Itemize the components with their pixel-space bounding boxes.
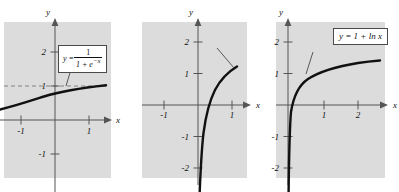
panel-1-plot: -1 1 2 1 -1 x y <box>0 0 133 192</box>
panel-3-background <box>276 22 385 178</box>
panel-2-y-axis-label: y <box>188 7 193 17</box>
panel-1-fraction-denominator: 1 + e−x <box>74 58 102 69</box>
panel-1-xtick-label-1: 1 <box>87 126 92 136</box>
panel-1-ytick-label-1: 1 <box>42 81 47 91</box>
panel-2-ytick-label-neg1: -1 <box>182 132 190 142</box>
panel-3-xtick-label-1: 1 <box>322 110 327 120</box>
panel-sigmoid: -1 1 2 1 -1 x y y =11 + e−x <box>0 0 133 192</box>
panel-1-equation-lhs: y = <box>63 54 74 63</box>
panel-1-exponent: −x <box>93 57 100 64</box>
panel-3-y-axis-label: y <box>278 7 283 17</box>
panel-1-xtick-label-neg1: -1 <box>17 126 25 136</box>
panel-1-ytick-label-neg1: -1 <box>39 149 47 159</box>
panel-2-xtick-label-neg1: -1 <box>160 110 168 120</box>
panel-2-equation-lhs: y = <box>339 31 351 41</box>
panel-1-y-axis-label: y <box>45 7 50 17</box>
panel-3-xtick-label-2: 2 <box>356 110 361 120</box>
panel-2-ytick-label-2: 2 <box>185 37 190 47</box>
panel-3-ytick-label-neg2: -2 <box>272 163 280 173</box>
panel-2-plot: -1 1 2 1 -1 -2 x y <box>133 0 266 192</box>
panel-1-x-axis-label: x <box>115 115 120 125</box>
panel-1-equation-label: y =11 + e−x <box>58 45 107 73</box>
panel-natural-log: -1 1 2 1 -1 -2 x y y = 1 + ln x <box>133 0 266 192</box>
panel-3-ytick-label-2: 2 <box>275 37 280 47</box>
panel-1-equation-fraction: 11 + e−x <box>74 49 102 69</box>
panel-3-x-axis-label: x <box>392 100 397 110</box>
panel-2-xtick-label-1: 1 <box>230 110 235 120</box>
panel-3-ytick-label-1: 1 <box>275 69 280 79</box>
panel-2-ytick-label-1: 1 <box>185 69 190 79</box>
panel-1-ytick-label-2: 2 <box>42 47 47 57</box>
panel-3-ytick-label-neg1: -1 <box>272 132 280 142</box>
panel-2-background <box>142 22 247 178</box>
panel-2-equation-label: y = 1 + ln x <box>333 28 388 45</box>
panel-2-equation-rhs: 1 + ln x <box>354 31 382 41</box>
figure-three-log-graphs: -1 1 2 1 -1 x y y =11 + e−x <box>0 0 399 192</box>
panel-2-ytick-label-neg2: -2 <box>182 163 190 173</box>
panel-2-x-axis-label: x <box>255 100 260 110</box>
